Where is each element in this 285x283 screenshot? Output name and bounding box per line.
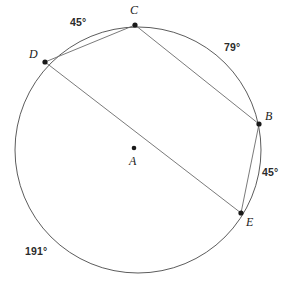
geometry-canvas bbox=[0, 0, 285, 283]
arc-ED-measure: 191° bbox=[25, 246, 48, 257]
point-label-A: A bbox=[129, 155, 136, 167]
chord-DE bbox=[45, 62, 241, 213]
arc-DC-measure: 45° bbox=[70, 17, 86, 28]
chord-DC bbox=[45, 25, 135, 62]
point-label-E: E bbox=[246, 216, 253, 228]
point-label-C: C bbox=[130, 4, 138, 16]
point-C-dot bbox=[132, 22, 137, 27]
chord-CB bbox=[135, 25, 259, 124]
arc-CB-measure: 79° bbox=[224, 42, 240, 53]
point-label-B: B bbox=[265, 110, 272, 122]
point-A-dot bbox=[132, 146, 137, 151]
point-B-dot bbox=[256, 121, 261, 126]
main-circle bbox=[15, 27, 261, 273]
chord-BE bbox=[241, 124, 259, 213]
point-E-dot bbox=[238, 210, 243, 215]
point-label-D: D bbox=[29, 48, 38, 60]
circle-geometry-figure: A B C D E 45° 79° 45° 191° bbox=[0, 0, 285, 283]
point-D-dot bbox=[42, 59, 47, 64]
arc-BE-measure: 45° bbox=[262, 167, 278, 178]
